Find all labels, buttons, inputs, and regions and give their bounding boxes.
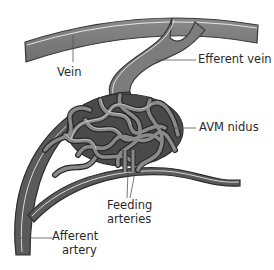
feeding-arteries-label-line2: arteries [107, 213, 151, 226]
feeding-arteries-label-line1: Feeding [107, 199, 152, 212]
avm-nidus [45, 94, 183, 175]
vein-label: Vein [57, 66, 82, 79]
avm-diagram [0, 0, 274, 270]
afferent-artery-label-line1: Afferent [52, 230, 98, 243]
afferent-artery-label-line2: artery [62, 244, 97, 257]
avm-nidus-label: AVM nidus [199, 121, 259, 134]
efferent-vein-label: Efferent vein [198, 53, 272, 66]
